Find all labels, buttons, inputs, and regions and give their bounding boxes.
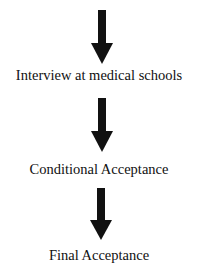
step-conditional-acceptance: Conditional Acceptance <box>0 161 198 177</box>
step-interview: Interview at medical schools <box>0 67 198 83</box>
down-arrow-icon <box>0 188 198 242</box>
step-final-acceptance: Final Acceptance <box>0 247 198 263</box>
down-arrow-icon <box>0 10 198 64</box>
down-arrow-icon <box>0 98 198 152</box>
